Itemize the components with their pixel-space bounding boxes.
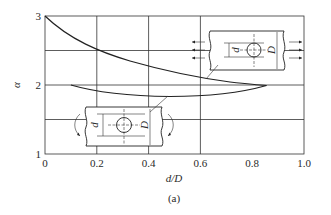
moment-arrow-left	[75, 114, 80, 136]
y-tick-3: 3	[36, 10, 42, 22]
figure-caption: (a)	[168, 192, 181, 205]
tension-arrows-left	[192, 41, 205, 60]
stress-concentration-chart: 3 2 1 α 0 0.2 0.4 0.6 0.8 1.0 d/D (a) d …	[0, 0, 331, 215]
tension-inset: d D	[192, 31, 302, 79]
inset-top-d-label: d	[229, 47, 241, 53]
inset-bottom-d-label: d	[88, 122, 100, 128]
moment-arrow-right	[168, 114, 173, 136]
x-tick-0.4: 0.4	[142, 157, 156, 169]
inset-top-D-label: D	[265, 46, 277, 55]
x-tick-0: 0	[42, 157, 48, 169]
y-axis-label: α	[10, 82, 22, 88]
x-tick-0.6: 0.6	[194, 157, 208, 169]
bending-curve	[71, 85, 267, 97]
x-axis-label: d/D	[166, 172, 183, 184]
y-tick-1: 1	[36, 148, 42, 160]
bending-inset: d D	[75, 96, 174, 146]
y-tick-2: 2	[36, 79, 42, 91]
x-tick-0.2: 0.2	[90, 157, 104, 169]
x-tick-1.0: 1.0	[297, 157, 311, 169]
x-tick-0.8: 0.8	[245, 157, 259, 169]
tension-arrows-right	[289, 41, 302, 60]
inset-bottom-D-label: D	[138, 121, 150, 130]
